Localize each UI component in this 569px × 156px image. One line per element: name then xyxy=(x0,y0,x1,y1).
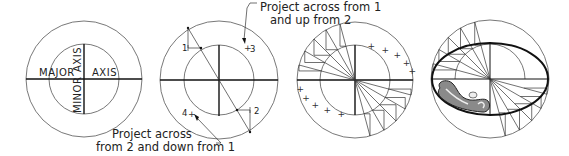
major-label: MAJOR xyxy=(39,67,75,78)
annotation-top-line1: Project across from 1 xyxy=(260,0,381,14)
svg-text:+: + xyxy=(188,109,196,119)
annotation-top-line2: and up from 2 xyxy=(270,13,351,27)
svg-text:+: + xyxy=(337,109,345,119)
point-4-label: 4 xyxy=(182,108,187,118)
svg-text:+: + xyxy=(368,41,376,51)
point-2-label: 2 xyxy=(254,106,259,116)
annotation-bottom-line2: from 2 and down from 1 xyxy=(96,140,235,154)
ellipse-construction-figure: MAJOR AXIS AXIS MINOR 1 2 + 3 + 4 xyxy=(0,0,569,156)
minor-label: MINOR xyxy=(72,77,83,113)
panel-3-projection-points: ++++++++++ xyxy=(296,22,416,138)
point-3-label: 3 xyxy=(250,44,255,54)
annotation-bottom-line1: Project across xyxy=(112,127,192,141)
point-1-label: 1 xyxy=(182,43,187,53)
minor-axis-label: AXIS xyxy=(72,47,83,72)
svg-text:+: + xyxy=(311,100,319,110)
major-axis-label: AXIS xyxy=(92,67,117,78)
svg-text:+: + xyxy=(302,93,310,103)
panel-1-axes-circles: MAJOR AXIS AXIS MINOR xyxy=(26,21,142,137)
leader-top xyxy=(244,3,257,40)
svg-text:+: + xyxy=(324,105,332,115)
french-curve-icon xyxy=(438,81,489,112)
svg-text:+: + xyxy=(394,50,402,60)
panel-4-completed-ellipse xyxy=(431,20,549,138)
svg-text:+: + xyxy=(382,45,390,55)
panel-2-projection: 1 2 + 3 + 4 Project across from 1 and up… xyxy=(96,0,381,154)
svg-text:+: + xyxy=(403,58,411,68)
